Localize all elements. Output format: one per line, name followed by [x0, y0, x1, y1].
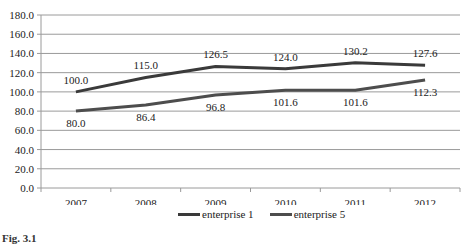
- legend-line-swatch-icon: [270, 213, 292, 216]
- data-label: 100.0: [64, 74, 89, 86]
- x-tick-label: 2010: [274, 197, 297, 205]
- y-tick-label: 80.0: [15, 105, 35, 117]
- data-label: 126.5: [203, 48, 228, 60]
- data-label: 96.8: [206, 101, 226, 113]
- y-tick-label: 20.0: [15, 163, 35, 175]
- data-label: 115.0: [134, 59, 159, 71]
- data-series: [76, 63, 425, 111]
- line-chart: 0.020.040.060.080.0100.0120.0140.0160.01…: [0, 0, 469, 205]
- y-tick-label: 60.0: [15, 124, 35, 136]
- y-tick-label: 40.0: [15, 144, 35, 156]
- legend-label: enterprise 1: [202, 208, 254, 220]
- gridlines: [37, 15, 460, 188]
- data-label: 127.6: [413, 47, 438, 59]
- series-line-enterprise-5: [76, 80, 425, 111]
- y-tick-label: 0.0: [20, 182, 34, 194]
- x-tick-label: 2008: [135, 197, 158, 205]
- figure-caption: Fig. 3.1: [2, 232, 37, 244]
- x-tick-label: 2007: [65, 197, 88, 205]
- y-tick-label: 100.0: [9, 86, 34, 98]
- x-tick-label: 2009: [205, 197, 228, 205]
- y-tick-label: 120.0: [9, 67, 34, 79]
- y-tick-label: 160.0: [9, 28, 34, 40]
- chart-legend: enterprise 1 enterprise 5: [178, 208, 345, 220]
- x-axis-ticks: 200720082009201020112012: [41, 188, 460, 205]
- legend-label: enterprise 5: [294, 208, 346, 220]
- data-label: 124.0: [273, 51, 298, 63]
- y-tick-label: 180.0: [9, 9, 34, 21]
- y-tick-label: 140.0: [9, 47, 34, 59]
- legend-item-enterprise-5: enterprise 5: [270, 208, 346, 220]
- legend-line-swatch-icon: [178, 213, 200, 216]
- data-label: 80.0: [66, 117, 86, 129]
- x-tick-label: 2011: [344, 197, 366, 205]
- data-label: 130.2: [343, 45, 368, 57]
- y-axis-ticks: 0.020.040.060.080.0100.0120.0140.0160.01…: [9, 9, 34, 194]
- legend-item-enterprise-1: enterprise 1: [178, 208, 254, 220]
- data-label: 86.4: [136, 111, 156, 123]
- data-label: 112.3: [413, 86, 438, 98]
- data-label: 101.6: [343, 96, 368, 108]
- x-tick-label: 2012: [414, 197, 436, 205]
- data-label: 101.6: [273, 96, 298, 108]
